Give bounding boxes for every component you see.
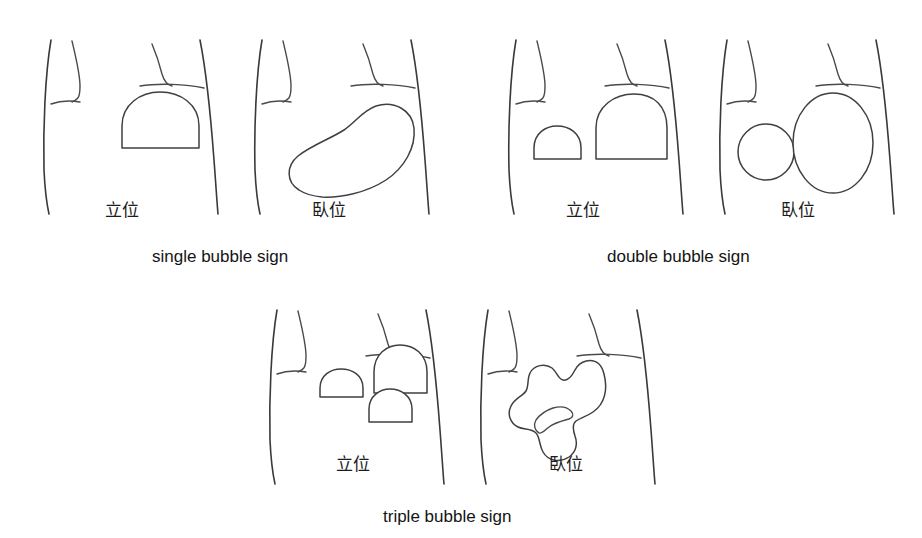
- panel-single-standing: 立位: [44, 40, 218, 220]
- panel-triple-standing: 立位: [270, 310, 444, 484]
- figure-root: 立位 臥位 single bubble sign 立位: [0, 0, 922, 538]
- caption-triple-bubble-sign: triple bubble sign: [383, 507, 512, 526]
- position-label-double-standing: 立位: [566, 200, 600, 220]
- caption-single-bubble-sign: single bubble sign: [152, 247, 288, 266]
- panel-double-standing: 立位: [509, 40, 683, 220]
- caption-double-bubble-sign: double bubble sign: [607, 247, 750, 266]
- position-label-triple-supine: 臥位: [549, 454, 583, 474]
- position-label-single-supine: 臥位: [312, 200, 346, 220]
- position-label-triple-standing: 立位: [336, 454, 370, 474]
- panel-double-supine: 臥位: [720, 40, 894, 220]
- panel-single-supine: 臥位: [255, 40, 429, 220]
- position-label-single-standing: 立位: [105, 200, 139, 220]
- panel-triple-supine: 臥位: [481, 310, 655, 484]
- bubble-sign-diagram: 立位 臥位 single bubble sign 立位: [0, 0, 922, 538]
- position-label-double-supine: 臥位: [781, 200, 815, 220]
